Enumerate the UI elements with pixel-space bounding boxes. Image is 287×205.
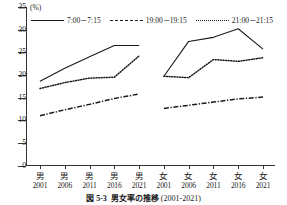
legend-label: 21:00－21:15 — [232, 17, 273, 25]
legend-label: 19:00－19:15 — [146, 17, 187, 25]
legend-item-2[interactable]: 21:00－21:15 — [196, 17, 273, 25]
series-line-male-0 — [40, 45, 139, 81]
chart-plot-lines — [0, 0, 287, 205]
series-line-female-1 — [164, 97, 263, 108]
series-line-male-1 — [40, 94, 139, 116]
series-line-female-2 — [164, 58, 263, 78]
legend-swatch-solid-icon — [31, 18, 64, 24]
figure-container: (%) 05101520253035 男2001男2006男2011男2016男… — [0, 0, 287, 205]
figure-caption: 図 5-3男女率の推移(2001-2021) — [0, 194, 287, 204]
chart-legend: 7:00－7:1519:00－19:1521:00－21:15 — [31, 15, 281, 26]
series-line-female-0 — [164, 29, 263, 77]
caption-number: 図 5-3 — [86, 194, 107, 203]
legend-item-1[interactable]: 19:00－19:15 — [110, 17, 187, 25]
legend-swatch-dash-dot-icon — [110, 18, 143, 24]
legend-item-0[interactable]: 7:00－7:15 — [31, 17, 101, 25]
caption-years: (2001-2021) — [161, 194, 201, 203]
legend-label: 7:00－7:15 — [67, 17, 101, 25]
legend-swatch-dotted-icon — [196, 18, 229, 24]
series-line-male-2 — [40, 56, 139, 89]
caption-title: 男女率の推移 — [111, 194, 159, 203]
